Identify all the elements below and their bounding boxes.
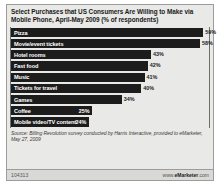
bar-category-label: Music [14, 74, 29, 80]
bar-chart-plot: Pizza59%Movie/event tickets58%Hotel room… [10, 27, 210, 128]
emarketer-watermark: www.eMarketer.com [163, 172, 209, 178]
chart-title: Select Purchases that US Consumers Are W… [7, 5, 213, 27]
bar-category-label: Mobile video/TV content [14, 119, 76, 125]
bar-value-label: 25% [79, 108, 90, 114]
bar-category-label: Coffee [14, 108, 31, 114]
bar-category-label: Games [14, 97, 32, 103]
chart-card: Select Purchases that US Consumers Are W… [6, 4, 214, 181]
bar: Coffee25% [11, 106, 92, 115]
bar-value-label: 34% [124, 97, 135, 102]
bar: Fast food [11, 61, 148, 70]
bar-value-label: 58% [202, 41, 213, 46]
watermark-suffix: .com [198, 172, 209, 178]
bar-row: Games34% [11, 94, 209, 105]
bar-row: Movie/event tickets58% [11, 38, 209, 49]
bar-row: Coffee25% [11, 105, 209, 116]
bar-row: Pizza59% [11, 27, 209, 38]
bar: Music [11, 73, 145, 82]
bar-value-label: 40% [143, 86, 154, 91]
bar: Pizza [11, 28, 203, 37]
chart-id-label: 104313 [11, 172, 28, 178]
bar-row: Music41% [11, 72, 209, 83]
bar: Hotel rooms [11, 50, 151, 59]
bar: Mobile video/TV content24% [11, 117, 89, 126]
bar-row: Mobile video/TV content24% [11, 116, 209, 127]
watermark-prefix: www. [163, 172, 175, 178]
watermark-brand: eMarketer [175, 172, 199, 178]
bar: Games [11, 95, 122, 104]
bar-value-label: 24% [75, 119, 86, 125]
bar-value-label: 59% [205, 30, 216, 35]
bar-row: Hotel rooms43% [11, 49, 209, 60]
bar: Tickets for travel [11, 84, 141, 93]
bar: Movie/event tickets [11, 39, 200, 48]
bar-value-label: 41% [147, 75, 158, 80]
chart-footer: 104313 www.eMarketer.com [7, 169, 213, 180]
bar-value-label: 43% [153, 52, 164, 57]
bar-category-label: Hotel rooms [14, 52, 46, 58]
chart-source: Source: Billing Revolution survey conduc… [11, 130, 209, 143]
bar-row: Tickets for travel40% [11, 83, 209, 94]
bar-category-label: Pizza [14, 30, 28, 36]
bar-category-label: Fast food [14, 63, 38, 69]
bar-value-label: 42% [150, 63, 161, 68]
bar-row: Fast food42% [11, 60, 209, 71]
bar-category-label: Movie/event tickets [14, 41, 63, 47]
bar-category-label: Tickets for travel [14, 85, 57, 91]
